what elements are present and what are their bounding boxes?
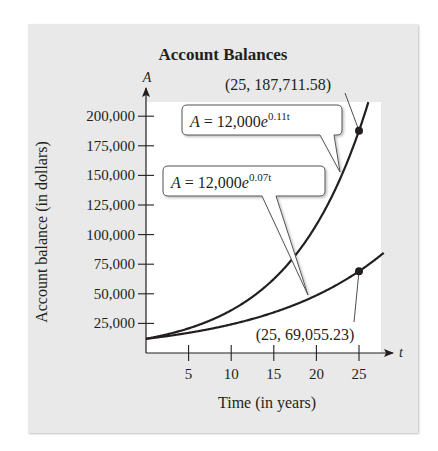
y-axis-variable: A	[142, 70, 152, 85]
y-tick-label: 175,000	[86, 138, 135, 154]
annotation-high-point: (25, 187,711.58)	[225, 76, 331, 94]
x-tick-label: 25	[352, 366, 367, 382]
x-tick-label: 5	[185, 366, 193, 382]
y-tick-label: 25,000	[94, 315, 135, 331]
x-tick-label: 20	[309, 366, 324, 382]
x-axis-variable: t	[399, 345, 404, 360]
y-tick-label: 100,000	[86, 227, 135, 243]
x-tick-label: 10	[224, 366, 239, 382]
x-tick-label: 15	[266, 366, 281, 382]
y-axis-label: Account balance (in dollars)	[33, 141, 51, 323]
y-ticks: 25,00050,00075,000100,000125,000150,0001…	[86, 108, 154, 331]
y-tick-label: 50,000	[94, 286, 135, 302]
y-tick-label: 200,000	[86, 108, 135, 124]
y-tick-label: 75,000	[94, 256, 135, 272]
y-tick-label: 125,000	[86, 197, 135, 213]
point-marker-high	[355, 127, 363, 135]
annotation-low-point: (25, 69,055.23)	[256, 326, 355, 344]
point-marker-low	[355, 267, 363, 275]
chart-title: Account Balances	[159, 45, 288, 64]
chart: Account Balances Account balance (in dol…	[0, 0, 438, 451]
y-tick-label: 150,000	[86, 167, 135, 183]
x-axis-label: Time (in years)	[218, 394, 316, 412]
